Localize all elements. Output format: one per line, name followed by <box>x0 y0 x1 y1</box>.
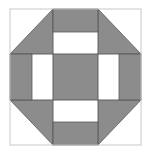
top-bar <box>53 9 98 32</box>
left-bar <box>10 54 32 100</box>
center-square <box>53 54 98 100</box>
quilt-block-svg <box>0 0 152 155</box>
bottom-bar <box>53 122 98 145</box>
right-bar <box>119 54 141 100</box>
quilt-block-diagram: Churn Dash quilt block <box>0 0 152 155</box>
